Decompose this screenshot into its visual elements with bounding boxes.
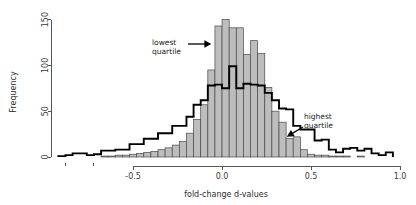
x-tick-label: 0.5 [305,172,318,181]
x-tick-label: -0.5 [125,172,141,181]
histogram-bar [293,137,300,157]
annotation-lowest-quartile: lowestquartile [152,38,210,56]
annotation-label: lowest [152,38,176,47]
histogram-bar [194,119,201,157]
histogram-bar [158,150,165,157]
histogram-bar [130,154,137,157]
histogram-bar [258,53,265,157]
histogram-bar [179,141,186,157]
histogram-bar [286,139,293,157]
y-tick-label: 150 [41,12,50,27]
x-axis: -0.50.00.51.0 [65,163,406,181]
histogram-bar [315,155,322,157]
histogram-chart: 050100150 -0.50.00.51.0 Frequency fold-c… [0,0,416,205]
x-tick-label: 1.0 [394,172,407,181]
histogram-figure: 050100150 -0.50.00.51.0 Frequency fold-c… [0,0,416,205]
histogram-bar [307,154,314,157]
annotation-arrow-head [288,131,294,136]
histogram-bar [201,105,208,157]
histogram-bar [151,152,158,158]
annotation-label: quartile [152,47,181,56]
histogram-bar [229,28,236,157]
histogram-bar [115,155,122,157]
histogram-bar [343,156,350,157]
histogram-bar [186,133,193,157]
annotation-label: quartile [304,121,333,130]
histogram-bar [144,152,151,157]
histogram-bar [279,122,286,157]
histogram-bar [265,87,272,157]
y-tick-label: 0 [41,154,50,159]
histogram-bar [336,156,343,157]
y-tick-label: 100 [41,58,50,73]
histogram-bar [236,28,243,157]
histogram-bar [172,145,179,157]
x-axis-title: fold-change d-values [184,190,268,199]
annotation-highest-quartile: highestquartile [288,112,333,136]
histogram-bar [322,155,329,157]
histogram-bar [137,153,144,157]
histogram-bar [165,148,172,157]
histogram-bar [208,70,215,157]
y-axis-title: Frequency [9,71,18,113]
y-axis: 050100150 [41,12,51,160]
histogram-bar [122,155,129,157]
histogram-bar [243,54,250,157]
histogram-bar [357,156,364,157]
histogram-bar [272,111,279,157]
y-tick-label: 50 [41,106,50,116]
x-tick-label: 0.0 [216,172,229,181]
annotation-label: highest [304,112,332,121]
histogram-bar [329,156,336,157]
lowest-quartile-bars [101,20,364,157]
histogram-bar [215,26,222,157]
histogram-bar [251,41,258,157]
histogram-bar [108,156,115,157]
annotation-arrow-head [205,41,210,46]
histogram-bar [300,150,307,157]
histogram-bar [101,156,108,157]
